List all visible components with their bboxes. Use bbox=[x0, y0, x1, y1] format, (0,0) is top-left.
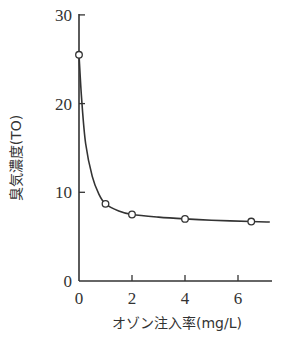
data-points bbox=[76, 52, 255, 225]
x-tick-label: 4 bbox=[181, 289, 190, 308]
fitted-curve bbox=[79, 55, 270, 222]
y-tick-label: 20 bbox=[55, 95, 72, 114]
odor-vs-ozone-chart: 0 10 20 30 0 2 4 6 オゾン注入率(mg/L) 臭気濃度(TO) bbox=[0, 0, 294, 350]
axes bbox=[79, 14, 272, 281]
y-tick-label: 0 bbox=[64, 272, 73, 291]
data-point-marker bbox=[129, 211, 136, 218]
x-tick-label: 6 bbox=[234, 289, 243, 308]
data-point-marker bbox=[182, 216, 189, 223]
y-tick-label: 10 bbox=[55, 183, 72, 202]
x-ticks bbox=[132, 275, 238, 281]
y-axis-title: 臭気濃度(TO) bbox=[8, 115, 24, 202]
data-point-marker bbox=[248, 218, 255, 225]
x-tick-label: 2 bbox=[128, 289, 137, 308]
y-tick-labels: 0 10 20 30 bbox=[55, 6, 72, 291]
data-point-marker bbox=[76, 52, 83, 59]
x-axis-title: オゾン注入率(mg/L) bbox=[112, 315, 242, 331]
x-tick-labels: 0 2 4 6 bbox=[75, 289, 243, 308]
data-point-marker bbox=[102, 201, 109, 208]
x-tick-label: 0 bbox=[75, 289, 84, 308]
y-tick-label: 30 bbox=[55, 6, 72, 25]
